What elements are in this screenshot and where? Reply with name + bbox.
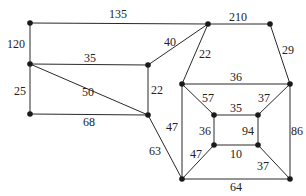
edge-weight-label: 22: [199, 47, 211, 61]
edge-weight-label: 22: [151, 83, 163, 97]
edge-weight-label: 36: [230, 70, 242, 84]
edge-weight-label: 94: [242, 124, 254, 138]
edge-weight-label: 135: [109, 7, 127, 21]
edge-weight-label: 47: [166, 120, 178, 134]
edge-weight-label: 25: [14, 84, 26, 98]
edge-weight-label: 29: [282, 43, 294, 57]
edge-weight-label: 50: [82, 85, 94, 99]
edge-weight-label: 68: [83, 115, 95, 129]
graph-node-d: [27, 61, 33, 67]
graph-node-o: [287, 176, 293, 182]
graph-node-b: [205, 21, 211, 27]
edge-weight-label: 63: [149, 144, 161, 158]
edge-weight-label: 210: [229, 10, 247, 24]
edge-weight-label: 47: [190, 147, 202, 161]
graph-node-n: [179, 176, 185, 182]
graph-node-e: [145, 62, 151, 68]
weighted-graph-diagram: 1351202103540255022682229365737353694104…: [0, 0, 306, 196]
edge-weight-labels: 1351202103540255022682229365737353694104…: [7, 7, 303, 194]
edge-weight-label: 35: [230, 101, 242, 115]
edge-weight-label: 86: [291, 124, 303, 138]
edge-weight-label: 120: [7, 37, 25, 51]
graph-node-c: [267, 21, 273, 27]
graph-node-l: [211, 142, 217, 148]
edge-weight-label: 35: [84, 51, 96, 65]
graph-node-a: [27, 20, 33, 26]
graph-node-j: [211, 112, 217, 118]
edge-weight-label: 10: [230, 147, 242, 161]
edge-weight-label: 36: [199, 124, 211, 138]
edge-weight-label: 37: [258, 91, 270, 105]
graph-node-m: [255, 142, 261, 148]
edge-weight-label: 40: [164, 35, 176, 49]
graph-node-h: [179, 81, 185, 87]
edge-weight-label: 57: [202, 91, 214, 105]
edge-a-b: [30, 23, 208, 24]
graph-node-f: [27, 111, 33, 117]
graph-node-g: [145, 112, 151, 118]
edge-weight-label: 64: [230, 180, 242, 194]
edge-weight-label: 37: [257, 159, 269, 173]
graph-node-i: [287, 81, 293, 87]
graph-node-k: [255, 112, 261, 118]
